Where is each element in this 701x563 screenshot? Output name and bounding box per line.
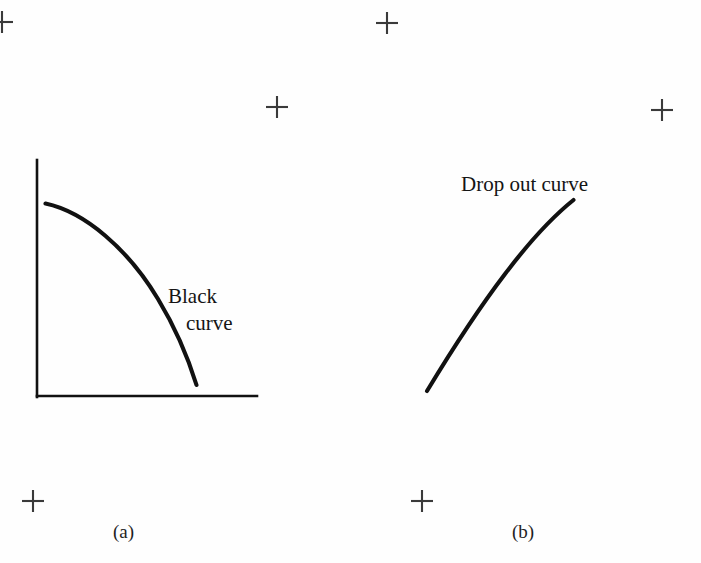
registration-mark-top-left xyxy=(0,11,13,33)
figure-container: Black curve Drop out curve (a) (b) xyxy=(0,0,701,563)
registration-mark-bottom-center xyxy=(411,490,433,512)
registration-marks xyxy=(0,11,673,512)
panel-b xyxy=(427,200,574,391)
registration-mark-upper-right xyxy=(651,99,673,121)
panel-a-curve-label-line2: curve xyxy=(168,310,233,337)
registration-mark-top-center xyxy=(376,12,398,34)
registration-mark-bottom-left xyxy=(22,490,44,512)
panel-b-curve-label: Drop out curve xyxy=(461,172,588,197)
panel-a xyxy=(37,160,257,397)
panel-a-caption: (a) xyxy=(113,521,134,543)
registration-mark-upper-middle xyxy=(266,96,288,118)
panel-a-curve-label-line1: Black xyxy=(168,284,217,308)
panel-b-drop-out-curve xyxy=(427,200,574,391)
panel-a-curve-label: Black curve xyxy=(168,283,233,338)
panel-b-caption: (b) xyxy=(512,521,534,543)
figure-canvas xyxy=(0,0,701,563)
